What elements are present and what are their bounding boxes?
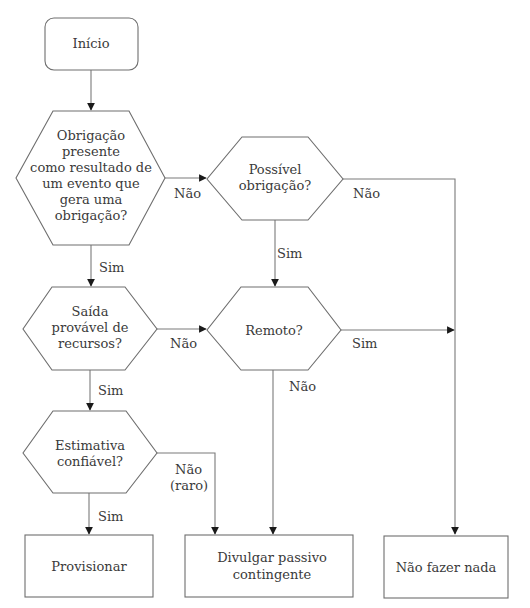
node-obligation-line-1: Obrigação [57, 128, 125, 143]
node-remote-label: Remoto? [245, 323, 303, 338]
node-estimate-question: Estimativa confiável? [23, 411, 157, 493]
edge-label-remote-no: Não [289, 379, 316, 394]
edge-label-outflow-no: Não [170, 336, 197, 351]
edge-possible-to-nothing [343, 179, 455, 534]
edge-label-estimate-yes: Sim [98, 509, 123, 524]
node-outflow-line-2: provável de [52, 320, 129, 335]
node-possible-line-2: obrigação? [239, 178, 311, 193]
node-obligation-line-3: como resultado de [30, 160, 152, 175]
node-obligation-line-6: obrigação? [55, 208, 127, 223]
node-possible-obligation: Possível obrigação? [207, 137, 343, 220]
edge-label-possible-yes: Sim [277, 246, 302, 261]
node-estimate-line-2: confiável? [57, 454, 123, 469]
edge-label-obligation-yes: Sim [99, 260, 124, 275]
edge-label-estimate-no-rare: (raro) [170, 478, 208, 493]
node-disclose-line-1: Divulgar passivo [217, 550, 327, 565]
node-start-label: Início [73, 36, 110, 51]
node-start: Início [45, 18, 138, 70]
node-disclose-contingent-liability: Divulgar passivo contingente [185, 535, 353, 597]
node-provision-label: Provisionar [51, 559, 127, 574]
node-do-nothing-label: Não fazer nada [396, 560, 497, 575]
node-obligation-line-5: gera uma [60, 192, 123, 207]
node-do-nothing: Não fazer nada [384, 536, 508, 598]
node-outflow-question: Saída provável de recursos? [23, 287, 157, 370]
node-provision: Provisionar [25, 535, 153, 597]
flowchart-diagram: Não Sim Não Sim Não Sim Sim Não Sim Não … [0, 0, 530, 608]
node-disclose-line-2: contingente [233, 567, 312, 582]
node-obligation-line-2: presente [62, 144, 120, 159]
edge-label-obligation-no: Não [174, 186, 201, 201]
node-obligation-question: Obrigação presente como resultado de um … [16, 111, 165, 245]
edge-label-estimate-no: Não [175, 462, 202, 477]
node-outflow-line-1: Saída [72, 304, 109, 319]
edge-label-outflow-yes: Sim [98, 383, 123, 398]
node-outflow-line-3: recursos? [58, 336, 122, 351]
node-remote-question: Remoto? [207, 287, 341, 370]
node-obligation-line-4: um evento que [42, 176, 140, 191]
node-estimate-line-1: Estimativa [55, 438, 125, 453]
edge-label-remote-yes: Sim [352, 336, 377, 351]
edge-label-possible-no: Não [353, 186, 380, 201]
node-possible-line-1: Possível [249, 162, 302, 177]
